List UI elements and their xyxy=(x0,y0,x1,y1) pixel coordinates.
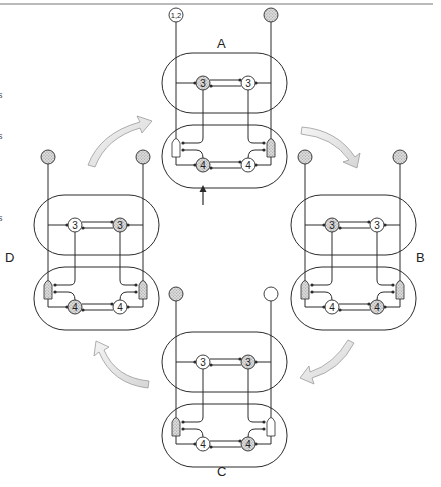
top-pin xyxy=(264,8,278,22)
cropped-text-fragment: s xyxy=(0,213,3,223)
side-tag xyxy=(267,139,275,158)
svg-text:4: 4 xyxy=(374,302,380,313)
top-pin xyxy=(393,150,407,164)
panels-group: 1,23344334433443344 xyxy=(34,8,416,467)
svg-text:4: 4 xyxy=(245,439,251,450)
svg-text:3: 3 xyxy=(329,220,335,231)
side-tag xyxy=(267,418,275,437)
side-tag xyxy=(172,139,180,158)
cycle-arrows-group xyxy=(88,116,360,388)
side-tag xyxy=(139,281,147,300)
svg-text:3: 3 xyxy=(117,220,123,231)
cycle-diagram-canvas: 1,23344334433443344 xyxy=(0,0,441,487)
top-pin xyxy=(136,150,150,164)
top-pin xyxy=(298,150,312,164)
top-pin xyxy=(169,287,183,301)
side-tag xyxy=(396,281,404,300)
svg-text:3: 3 xyxy=(374,220,380,231)
svg-text:3: 3 xyxy=(200,357,206,368)
svg-text:3: 3 xyxy=(72,220,78,231)
side-tag xyxy=(172,418,180,437)
cropped-text-fragment: s xyxy=(0,90,3,100)
panel-label-d: D xyxy=(5,250,14,265)
cycle-arrow-b-to-c xyxy=(300,340,354,384)
top-pin xyxy=(41,150,55,164)
panel-d: 3344 xyxy=(34,150,159,330)
svg-text:4: 4 xyxy=(200,160,206,171)
panel-label-b: B xyxy=(416,250,425,265)
cropped-text-fragment: s xyxy=(0,131,3,141)
svg-text:4: 4 xyxy=(329,302,335,313)
pin-label: 1,2 xyxy=(171,11,181,20)
svg-text:3: 3 xyxy=(245,357,251,368)
svg-text:4: 4 xyxy=(117,302,123,313)
cycle-arrow-c-to-d xyxy=(94,341,149,388)
svg-text:3: 3 xyxy=(200,78,206,89)
panel-c: 3344 xyxy=(162,287,287,467)
panel-label-c: C xyxy=(217,464,226,479)
panel-b: 3344 xyxy=(291,150,416,330)
panel-label-a: A xyxy=(217,36,226,51)
svg-text:4: 4 xyxy=(72,302,78,313)
top-pin xyxy=(264,287,278,301)
svg-text:4: 4 xyxy=(200,439,206,450)
side-tag xyxy=(301,281,309,300)
side-tag xyxy=(44,281,52,300)
svg-text:3: 3 xyxy=(245,78,251,89)
svg-text:4: 4 xyxy=(245,160,251,171)
